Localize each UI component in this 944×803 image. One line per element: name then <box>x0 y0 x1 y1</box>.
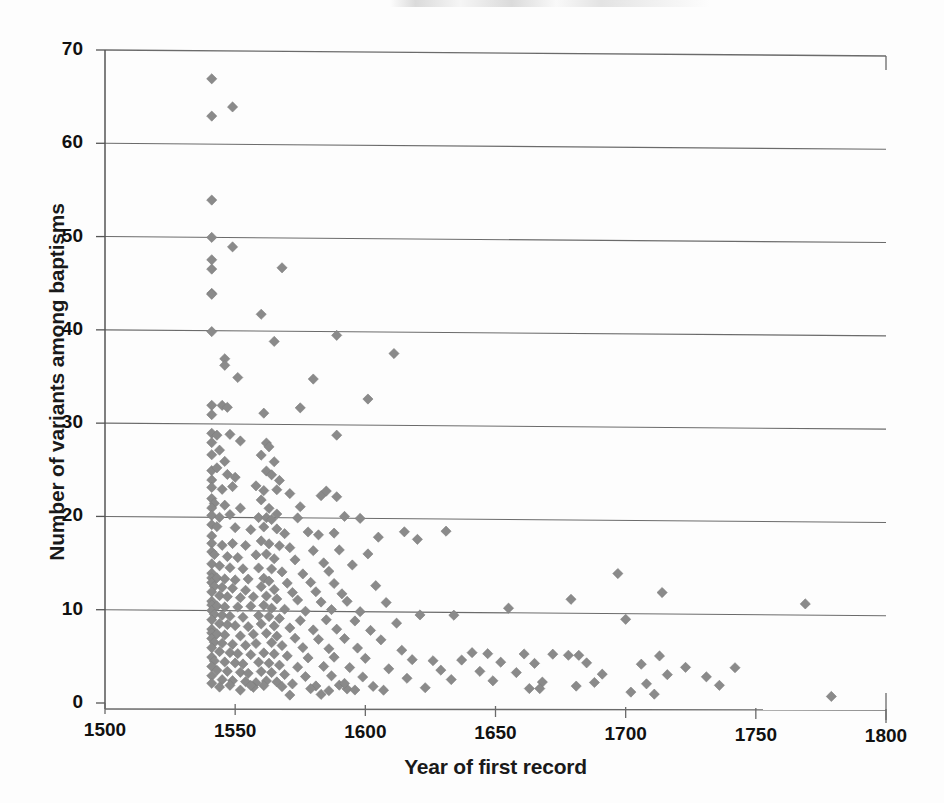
data-point <box>649 689 659 699</box>
data-point <box>654 651 664 661</box>
x-tick-marks <box>105 703 886 720</box>
data-point-group <box>207 74 837 702</box>
data-point <box>240 640 250 650</box>
data-point <box>308 625 318 635</box>
data-point <box>220 456 230 466</box>
y-tick-label: 10 <box>23 598 83 620</box>
data-point <box>227 538 237 548</box>
data-point <box>272 594 282 604</box>
data-point <box>230 575 240 585</box>
data-point <box>207 482 217 492</box>
data-point <box>269 584 279 594</box>
data-point <box>298 569 308 579</box>
data-point <box>233 372 243 382</box>
data-point <box>256 582 266 592</box>
data-point <box>233 649 243 659</box>
data-point <box>290 555 300 565</box>
data-point <box>264 658 274 668</box>
data-point <box>295 615 305 625</box>
data-point <box>355 513 365 523</box>
data-point <box>511 667 521 677</box>
data-point <box>339 511 349 521</box>
data-point <box>207 74 217 84</box>
data-point <box>220 500 230 510</box>
data-point <box>285 690 295 700</box>
data-point <box>730 663 740 673</box>
data-point <box>548 649 558 659</box>
data-point <box>303 653 313 663</box>
data-point <box>259 522 269 532</box>
data-point <box>274 475 284 485</box>
data-point <box>319 558 329 568</box>
data-point <box>225 509 235 519</box>
data-point <box>371 581 381 591</box>
data-point <box>220 574 230 584</box>
data-point <box>582 658 592 668</box>
data-point <box>662 670 672 680</box>
data-point <box>332 430 342 440</box>
data-point <box>358 672 368 682</box>
data-point <box>248 592 258 602</box>
data-point <box>230 523 240 533</box>
data-point <box>261 628 271 638</box>
data-point <box>207 195 217 205</box>
data-point <box>571 681 581 691</box>
data-point <box>613 568 623 578</box>
data-point <box>207 559 217 569</box>
data-point <box>295 403 305 413</box>
data-point <box>300 606 310 616</box>
data-point <box>261 591 271 601</box>
data-point <box>467 648 477 658</box>
y-tick-label: 0 <box>23 691 83 713</box>
x-tick-label: 1550 <box>195 720 275 742</box>
data-point <box>267 667 277 677</box>
x-tick-label: 1600 <box>325 721 405 743</box>
data-point <box>329 528 339 538</box>
data-point <box>207 289 217 299</box>
data-point <box>264 611 274 621</box>
data-point <box>287 587 297 597</box>
data-point <box>227 482 237 492</box>
data-point <box>238 564 248 574</box>
data-point <box>415 610 425 620</box>
data-point <box>225 563 235 573</box>
data-point <box>272 485 282 495</box>
x-tick-label: 1500 <box>65 719 145 741</box>
data-point <box>636 659 646 669</box>
data-point <box>207 410 217 420</box>
data-point <box>235 503 245 513</box>
data-point <box>214 561 224 571</box>
data-point <box>319 661 329 671</box>
data-point <box>235 685 245 695</box>
data-point <box>311 587 321 597</box>
data-point <box>222 551 232 561</box>
data-point <box>243 622 253 632</box>
data-point <box>264 503 274 513</box>
data-point <box>253 657 263 667</box>
data-point <box>227 242 237 252</box>
data-point <box>332 492 342 502</box>
data-point <box>256 619 266 629</box>
data-point <box>225 429 235 439</box>
data-point <box>295 502 305 512</box>
x-tick-label: 1700 <box>586 723 666 745</box>
data-point <box>230 621 240 631</box>
data-point <box>303 527 313 537</box>
x-tick-label: 1750 <box>716 724 796 746</box>
data-point <box>269 457 279 467</box>
data-point <box>280 669 290 679</box>
data-point <box>293 595 303 605</box>
data-point <box>243 574 253 584</box>
data-point <box>355 607 365 617</box>
data-point <box>256 309 266 319</box>
data-point <box>280 604 290 614</box>
data-point <box>457 655 467 665</box>
data-point <box>220 630 230 640</box>
data-point <box>222 666 232 676</box>
data-point <box>326 604 336 614</box>
data-point <box>566 594 576 604</box>
data-point <box>233 552 243 562</box>
data-point <box>220 657 230 667</box>
data-point <box>488 676 498 686</box>
data-point <box>316 597 326 607</box>
